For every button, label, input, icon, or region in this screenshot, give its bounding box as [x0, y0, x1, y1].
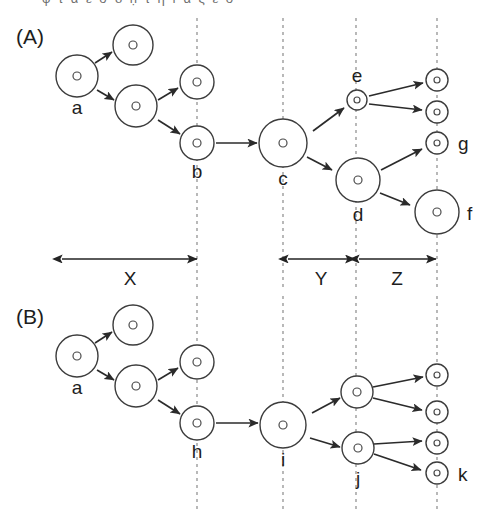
division-arrow-e-to-up [369, 83, 423, 96]
division-arrow-i-to-jsis [312, 398, 340, 413]
cell-A-a-down [115, 85, 157, 127]
cell-nucleus-icon [434, 409, 440, 415]
cell-nucleus-icon [434, 440, 440, 446]
cell-nucleus-icon [279, 421, 287, 429]
cell-A-e-up [426, 69, 448, 91]
cell-nucleus-icon [193, 419, 201, 427]
division-arrow-j-to-up [374, 441, 422, 444]
division-arrow-jsis-to-down [373, 398, 422, 410]
division-arrow-a-to-up [95, 52, 112, 63]
cell-nucleus-icon [193, 139, 201, 147]
cell-B-j-s-down [426, 401, 448, 423]
cell-B-i: i [260, 402, 306, 470]
cell-B-h: h [180, 406, 214, 462]
cell-nucleus-icon [434, 470, 440, 476]
cell-A-b-sister [180, 65, 214, 99]
division-arrow-to-h-sister [158, 368, 178, 380]
division-arrow-i-to-j [310, 438, 340, 447]
measurements-layer: XYZ [62, 259, 436, 289]
figure-canvas: (A)abcedgf(B)ahijk XYZ [0, 0, 491, 510]
cell-label-f: f [467, 203, 473, 224]
panels-layer: (A)abcedgf(B)ahijk [16, 25, 473, 489]
division-arrow-d-to-g [381, 149, 422, 170]
cell-nucleus-icon [354, 176, 362, 184]
cell-nucleus-icon [132, 102, 140, 110]
division-arrow-c-to-e [313, 108, 344, 131]
cell-nucleus-icon [434, 372, 440, 378]
division-arrow-a-to-down [97, 90, 114, 100]
cell-nucleus-icon [129, 41, 137, 49]
cell-B-j: j [342, 432, 374, 489]
measure-z-label: Z [391, 268, 403, 289]
clipped-header-text: φ τ α ε σ δ ḥ τ η ı α ς ε σ [42, 0, 236, 6]
cell-label-e: e [352, 65, 363, 86]
cell-A-e: e [347, 65, 367, 110]
cell-lineage-figure: φ τ α ε σ δ ḥ τ η ı α ς ε σ (A)abcedgf(B… [0, 0, 491, 510]
cell-nucleus-icon [73, 72, 81, 80]
cell-nucleus-icon [193, 78, 201, 86]
cell-nucleus-icon [279, 139, 287, 147]
cell-label-d: d [353, 204, 364, 225]
measure-z: Z [359, 259, 436, 289]
panel-A: (A)abcedgf [16, 25, 473, 234]
panel-label-B: (B) [16, 305, 44, 328]
cell-label-g: g [458, 133, 469, 154]
cell-nucleus-icon [434, 109, 440, 115]
measure-x: X [62, 259, 197, 289]
panel-label-A: (A) [16, 25, 44, 48]
cell-nucleus-icon [353, 388, 361, 396]
division-arrow-a-to-up [95, 332, 112, 343]
division-arrow-e-to-down [369, 104, 422, 110]
cell-label-j: j [355, 468, 360, 489]
cell-label-b: b [192, 161, 203, 182]
division-arrow-jsis-to-up [373, 377, 423, 387]
division-arrow-j-to-k [374, 454, 421, 470]
measure-x-label: X [124, 268, 137, 289]
cell-B-j-up [426, 432, 448, 454]
cell-A-f: f [415, 190, 473, 234]
cell-label-a: a [72, 97, 83, 118]
cell-nucleus-icon [433, 208, 441, 216]
cell-A-c: c [259, 119, 307, 189]
division-arrow-a-to-down [97, 370, 114, 380]
cell-label-h: h [192, 441, 203, 462]
cell-A-e-down [426, 101, 448, 123]
cell-B-j-s-up [426, 364, 448, 386]
cell-label-i: i [281, 449, 285, 470]
cell-nucleus-icon [354, 97, 360, 103]
cell-nucleus-icon [129, 321, 137, 329]
measure-y: Y [288, 259, 355, 289]
division-arrow-to-h [158, 400, 180, 414]
cell-B-a-up [113, 305, 153, 345]
cell-A-g: g [426, 132, 469, 154]
cell-B-k: k [426, 462, 468, 485]
cell-A-a: a [56, 55, 98, 118]
cell-B-h-sister [180, 345, 214, 379]
cell-B-j-sister [341, 376, 373, 408]
cell-label-c: c [278, 168, 288, 189]
cell-label-a: a [72, 377, 83, 398]
division-arrow-to-b [158, 120, 180, 134]
cell-B-a-down [115, 365, 157, 407]
cell-A-d: d [336, 158, 380, 225]
cell-A-b: b [180, 126, 214, 182]
measure-y-label: Y [315, 268, 328, 289]
cell-nucleus-icon [434, 77, 440, 83]
division-arrow-to-b-sister [158, 88, 178, 100]
cell-nucleus-icon [193, 358, 201, 366]
panel-B: (B)ahijk [16, 305, 468, 489]
guide-lines-layer [197, 18, 437, 510]
cell-nucleus-icon [132, 382, 140, 390]
division-arrow-c-to-d [307, 157, 332, 170]
division-arrow-d-to-f [380, 193, 410, 205]
cell-nucleus-icon [73, 352, 81, 360]
cell-nucleus-icon [354, 444, 362, 452]
cell-nucleus-icon [434, 140, 440, 146]
cell-A-a-up [113, 25, 153, 65]
cell-label-k: k [458, 464, 468, 485]
cell-B-a: a [56, 335, 98, 398]
